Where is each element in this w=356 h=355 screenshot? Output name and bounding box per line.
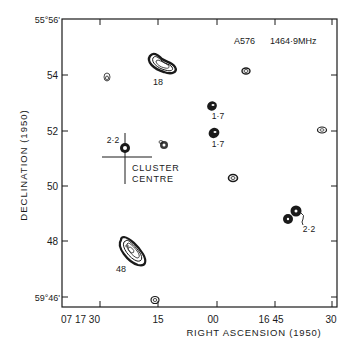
right-ticks (331, 75, 337, 297)
cluster-label: CLUSTER (132, 163, 180, 173)
x-tick-label: 00 (207, 314, 219, 325)
y-tick-label: 50 (47, 181, 59, 192)
source-2-2-central-contours (120, 143, 130, 153)
y-tick-label: 48 (47, 236, 59, 247)
source-1-7-lower-contours (207, 126, 222, 140)
top-ticks (100, 19, 332, 25)
x-tick-label: 07 17 30 (61, 314, 100, 325)
x-tick-label: 15 (152, 314, 164, 325)
x-axis-label: RIGHT ASCENSION (1950) (186, 327, 321, 338)
plot-frame (62, 19, 337, 307)
left-ticks (62, 75, 68, 297)
y-tick-label: 59°46' (35, 293, 61, 303)
bottom-ticks (100, 301, 332, 307)
frequency-label: 1464·9MHz (270, 36, 317, 46)
source-flux-label: 48 (116, 264, 126, 274)
source-flux-label: 1·7 (212, 139, 225, 149)
source-48-contours (120, 237, 145, 265)
cluster-label: CENTRE (132, 174, 174, 184)
radio-contour-map: 55°56' 54 52 50 48 59°46' 07 17 30 15 00… (0, 0, 356, 355)
faint-source-contours (104, 73, 110, 81)
source-flux-label: 2·2 (303, 224, 316, 234)
y-tick-label: 52 (47, 126, 59, 137)
source-2-2-double-contours (283, 206, 302, 225)
faint-source-contours (229, 175, 238, 182)
y-axis-label: DECLINATION (1950) (18, 109, 29, 220)
y-tick-label: 55°56' (35, 15, 61, 25)
cluster-name: A576 (234, 36, 255, 46)
source-flux-label: 1·7 (212, 111, 225, 121)
x-tick-label: 30 (325, 314, 337, 325)
faint-source-contours (242, 68, 250, 74)
faint-source-contours (318, 127, 327, 133)
faint-source-contours (151, 297, 159, 304)
source-18-contours (149, 54, 176, 73)
x-tick-label: 16 45 (258, 314, 283, 325)
source-flux-label: 18 (153, 77, 163, 87)
y-tick-label: 54 (47, 70, 59, 81)
faint-source-contours (159, 141, 168, 150)
source-flux-label: 2·2 (107, 135, 120, 145)
